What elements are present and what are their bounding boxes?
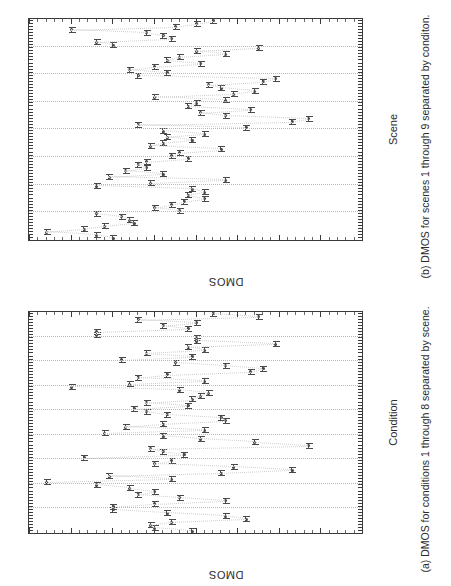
error-bar-cap <box>185 108 192 109</box>
error-bar-cap <box>144 414 151 415</box>
x-tick-mark <box>358 237 362 238</box>
x-tick-mark <box>29 426 33 427</box>
error-bar-cap <box>218 470 225 471</box>
x-tick-mark <box>358 518 362 519</box>
group-separator <box>29 101 362 102</box>
error-bar-cap <box>160 171 167 172</box>
series-connector <box>166 512 224 516</box>
panel-b-plot-area: 01020304050607080Condition 1123456789Con… <box>28 18 363 241</box>
x-tick-mark <box>358 524 362 525</box>
y-tick-mark <box>320 528 321 533</box>
error-bar-cap <box>177 213 184 214</box>
error-bar-cap <box>169 207 176 208</box>
x-tick-mark <box>29 377 33 378</box>
x-tick-mark <box>358 466 362 467</box>
x-tick-mark <box>358 47 362 48</box>
y-minor-tick <box>162 312 163 315</box>
x-tick-mark <box>29 164 33 165</box>
y-minor-tick <box>312 237 313 240</box>
x-tick-mark <box>29 47 33 48</box>
error-bar <box>291 467 292 473</box>
x-tick-mark <box>29 56 33 57</box>
x-tick-mark <box>358 398 362 399</box>
x-tick-mark <box>358 340 362 341</box>
error-bar-cap <box>144 355 151 356</box>
error-bar-cap <box>152 69 159 70</box>
group-separator <box>29 360 362 361</box>
error-bar-cap <box>189 191 196 192</box>
error-bar-cap <box>202 201 209 202</box>
error-bar-cap <box>81 231 88 232</box>
x-tick-mark <box>29 316 33 317</box>
x-tick-mark <box>358 50 362 51</box>
y-minor-tick <box>179 312 180 315</box>
y-minor-tick <box>295 312 296 315</box>
y-minor-tick <box>146 19 147 22</box>
error-bar-cap <box>94 487 101 488</box>
y-minor-tick <box>129 530 130 533</box>
y-minor-tick <box>229 237 230 240</box>
x-tick-mark <box>29 451 33 452</box>
x-tick-mark <box>29 231 33 232</box>
x-tick-mark <box>29 402 33 403</box>
y-minor-tick <box>79 530 80 533</box>
x-tick-mark <box>29 63 33 64</box>
error-bar-cap <box>189 533 196 534</box>
x-tick-mark <box>358 38 362 39</box>
error-bar-cap <box>94 188 101 189</box>
error-bar-cap <box>210 23 217 24</box>
error-bar-cap <box>135 380 142 381</box>
y-minor-tick <box>121 19 122 22</box>
error-bar-cap <box>194 26 201 27</box>
x-tick-mark <box>29 472 33 473</box>
x-tick-mark <box>29 198 33 199</box>
x-tick-mark <box>358 173 362 174</box>
y-minor-tick <box>337 312 338 315</box>
y-minor-tick <box>229 19 230 22</box>
x-tick-mark <box>358 435 362 436</box>
x-tick-mark <box>358 201 362 202</box>
error-bar-cap <box>106 478 113 479</box>
y-minor-tick <box>245 19 246 22</box>
x-tick-mark <box>29 201 33 202</box>
x-tick-mark <box>358 228 362 229</box>
x-tick-mark <box>29 216 33 217</box>
x-tick-mark <box>29 500 33 501</box>
x-tick-mark <box>29 429 33 430</box>
y-minor-tick <box>212 530 213 533</box>
x-tick-mark <box>358 59 362 60</box>
error-bar-cap <box>169 41 176 42</box>
x-tick-mark <box>358 142 362 143</box>
error-bar <box>191 137 192 143</box>
error-bar-cap <box>164 75 171 76</box>
x-tick-mark <box>358 386 362 387</box>
y-minor-tick <box>295 237 296 240</box>
x-tick-mark <box>29 469 33 470</box>
x-tick-mark <box>358 219 362 220</box>
error-bar <box>258 314 259 320</box>
x-tick-mark <box>29 26 33 27</box>
series-connector <box>150 145 221 149</box>
y-minor-tick <box>162 530 163 533</box>
series-connector <box>154 463 233 467</box>
panel-a-x-axis-title: Condition <box>387 311 399 534</box>
y-minor-tick <box>354 530 355 533</box>
x-tick-mark <box>358 170 362 171</box>
error-bar-cap <box>256 319 263 320</box>
error-bar-cap <box>181 204 188 205</box>
error-bar-cap <box>169 524 176 525</box>
error-bar-cap <box>306 448 313 449</box>
x-tick-mark <box>358 316 362 317</box>
series-connector <box>233 466 291 470</box>
y-minor-tick <box>146 237 147 240</box>
x-tick-mark <box>358 78 362 79</box>
x-tick-mark <box>29 331 33 332</box>
error-bar-cap <box>160 133 167 134</box>
x-tick-mark <box>358 500 362 501</box>
x-tick-mark <box>29 365 33 366</box>
x-tick-mark <box>29 142 33 143</box>
x-tick-mark <box>29 503 33 504</box>
x-tick-mark <box>29 90 33 91</box>
x-tick-mark <box>29 148 33 149</box>
y-minor-tick <box>312 312 313 315</box>
